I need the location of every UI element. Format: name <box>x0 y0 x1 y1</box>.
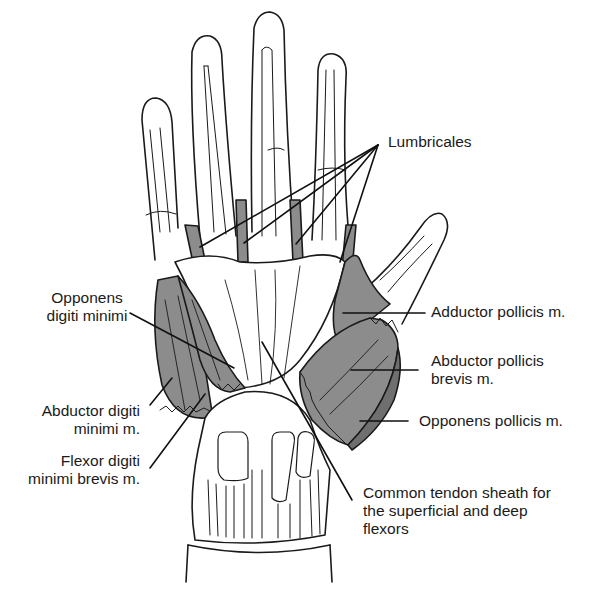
label-adductor-pollicis: Adductor pollicis m. <box>431 303 565 321</box>
label-opponens-digiti-minimi: Opponens digiti minimi <box>38 289 136 325</box>
forearm-outline <box>186 545 332 582</box>
label-abductor-digiti-minimi: Abductor digiti minimi m. <box>10 402 140 438</box>
ring-finger <box>192 36 236 238</box>
lumbrical-2 <box>236 200 248 262</box>
label-abductor-pollicis-brevis: Abductor pollicis brevis m. <box>431 352 544 388</box>
pisiform-block <box>218 432 248 481</box>
middle-finger <box>251 12 294 238</box>
label-common-tendon-sheath: Common tendon sheath for the superficial… <box>363 484 551 538</box>
label-flexor-digiti-minimi-brevis: Flexor digiti minimi brevis m. <box>10 452 140 488</box>
lumbrical-3 <box>290 200 303 262</box>
hand-anatomy-figure: Lumbricales Opponens digiti minimi Adduc… <box>0 0 595 589</box>
label-opponens-pollicis: Opponens pollicis m. <box>419 412 563 430</box>
little-finger <box>142 98 178 260</box>
label-lumbricales: Lumbricales <box>388 133 472 151</box>
